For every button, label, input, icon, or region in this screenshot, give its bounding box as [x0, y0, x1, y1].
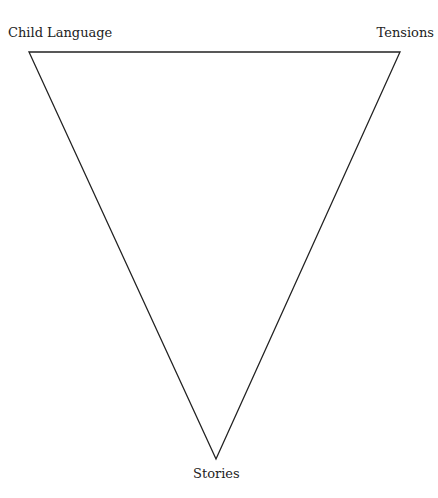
vertex-label-stories: Stories [193, 467, 240, 480]
triangle-shape [29, 52, 400, 459]
triangle-diagram [0, 0, 438, 498]
vertex-label-child-language: Child Language [8, 26, 112, 39]
vertex-label-tensions: Tensions [377, 26, 434, 39]
